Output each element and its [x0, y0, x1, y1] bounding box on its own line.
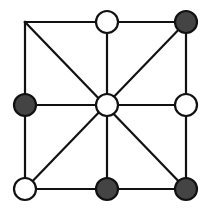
white-stone-bottom-left[interactable]: [14, 178, 36, 200]
black-stone-bottom-center[interactable]: [96, 178, 118, 200]
white-stone-middle-center[interactable]: [96, 94, 118, 116]
black-stone-middle-left[interactable]: [14, 94, 36, 116]
black-stone-top-right[interactable]: [175, 11, 197, 33]
black-stone-bottom-right[interactable]: [175, 178, 197, 200]
game-board: [0, 0, 219, 216]
empty-point-top-left[interactable]: [14, 11, 36, 33]
white-stone-top-center[interactable]: [96, 11, 118, 33]
white-stone-middle-right[interactable]: [175, 94, 197, 116]
